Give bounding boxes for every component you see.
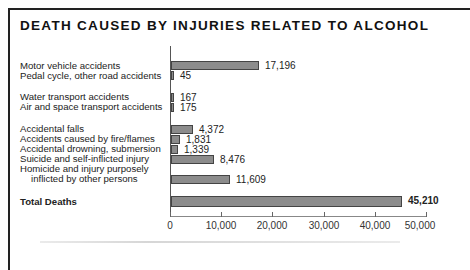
bar-total [171, 196, 402, 207]
x-tick-label-20000: 20,000 [257, 220, 288, 231]
value-label-pedal-cycle: 45 [180, 70, 191, 81]
bar-drowning [171, 145, 178, 154]
bar-fire [171, 135, 180, 144]
value-label-motor-vehicle: 17,196 [265, 60, 296, 71]
x-tick-40000 [375, 212, 376, 217]
x-tick-label-50000: 50,000 [405, 220, 436, 231]
x-axis-line [170, 216, 427, 217]
bar-pedal-cycle [171, 71, 174, 80]
bar-air-space [171, 103, 174, 112]
bar-falls [171, 125, 193, 134]
category-label-air-space: Air and space transport accidents [20, 102, 162, 112]
x-tick-0 [170, 212, 171, 217]
value-label-air-space: 175 [180, 102, 197, 113]
x-tick-label-40000: 40,000 [360, 220, 391, 231]
category-label-pedal-cycle: Pedal cycle, other road accidents [20, 71, 161, 81]
bar-motor-vehicle [171, 61, 259, 70]
value-label-suicide: 8,476 [220, 154, 245, 165]
category-label-total: Total Deaths [20, 197, 77, 207]
x-tick-20000 [272, 212, 273, 217]
value-label-drowning: 1,339 [184, 144, 209, 155]
x-tick-10000 [221, 212, 222, 217]
category-label-homicide-line2: inflicted by other persons [31, 174, 138, 184]
x-tick-label-10000: 10,000 [206, 220, 237, 231]
value-label-total: 45,210 [408, 195, 439, 206]
bar-water-transport [171, 93, 174, 102]
value-label-homicide: 11,609 [236, 174, 266, 185]
bar-suicide [171, 155, 214, 164]
bar-homicide [171, 175, 230, 184]
clipped-footnote [40, 241, 400, 243]
chart-title: DEATH CAUSED BY INJURIES RELATED TO ALCO… [20, 18, 429, 33]
x-tick-30000 [324, 212, 325, 217]
x-tick-label-30000: 30,000 [309, 220, 340, 231]
x-tick-50000 [426, 212, 427, 217]
x-tick-label-0: 0 [167, 220, 173, 231]
